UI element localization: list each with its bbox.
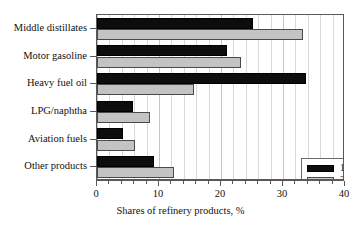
bar-2007-motor-gasoline (97, 57, 241, 68)
plot-area: 1973, total: 2719 Mt 2007, total: 3822 M… (96, 14, 344, 180)
x-tick-minor (195, 181, 196, 184)
x-tick-major (158, 181, 159, 186)
x-tick-minor (108, 181, 109, 184)
x-tick-label: 30 (277, 187, 288, 200)
x-tick-minor (121, 181, 122, 184)
category-axis: Middle distillatesMotor gasolineHeavy fu… (0, 14, 96, 180)
x-tick-minor (133, 181, 134, 184)
category-label: Middle distillates (14, 22, 87, 33)
x-tick-minor (319, 181, 320, 184)
x-tick-minor (294, 181, 295, 184)
x-tick-minor (307, 181, 308, 184)
bar-2007-middle-distillates (97, 29, 303, 40)
bar-1973-motor-gasoline (97, 45, 227, 56)
category-label: Heavy fuel oil (27, 77, 87, 88)
bar-1973-middle-distillates (97, 18, 253, 29)
x-tick-minor (257, 181, 258, 184)
legend-label-1973: 1973, total: 2719 Mt (340, 163, 344, 174)
x-tick-major (282, 181, 283, 186)
x-tick-minor (146, 181, 147, 184)
x-tick-minor (270, 181, 271, 184)
category-label: Other products (24, 160, 87, 171)
x-tick-major (220, 181, 221, 186)
bar-1973-lpg-naphtha (97, 101, 133, 112)
x-tick-label: 20 (215, 187, 226, 200)
legend: 1973, total: 2719 Mt 2007, total: 3822 M… (301, 158, 344, 180)
category-label: LPG/naphtha (31, 105, 87, 116)
x-tick-minor (208, 181, 209, 184)
bar-2007-lpg-naphtha (97, 112, 150, 123)
x-tick-label: 0 (93, 187, 98, 200)
x-tick-label: 10 (153, 187, 164, 200)
x-tick-major (344, 181, 345, 186)
category-label: Aviation fuels (28, 133, 87, 144)
x-tick-label: 40 (339, 187, 350, 200)
x-tick-major (96, 181, 97, 186)
x-tick-minor (170, 181, 171, 184)
x-tick-minor (183, 181, 184, 184)
bar-1973-other-products (97, 156, 154, 167)
bar-chart: Middle distillatesMotor gasolineHeavy fu… (0, 0, 361, 230)
bar-2007-heavy-fuel-oil (97, 84, 194, 95)
bar-1973-aviation-fuels (97, 128, 123, 139)
bar-2007-other-products (97, 167, 174, 178)
bar-2007-aviation-fuels (97, 140, 135, 151)
legend-swatch-1973 (307, 165, 334, 172)
x-tick-minor (232, 181, 233, 184)
legend-item: 1973, total: 2719 Mt (307, 162, 344, 174)
bars-layer (97, 15, 343, 179)
x-tick-minor (332, 181, 333, 184)
category-label: Motor gasoline (23, 50, 87, 61)
x-axis-label: Shares of refinery products, % (0, 205, 361, 216)
x-tick-minor (245, 181, 246, 184)
bar-1973-heavy-fuel-oil (97, 73, 306, 84)
x-axis-tick-labels: 010203040 (96, 187, 344, 201)
